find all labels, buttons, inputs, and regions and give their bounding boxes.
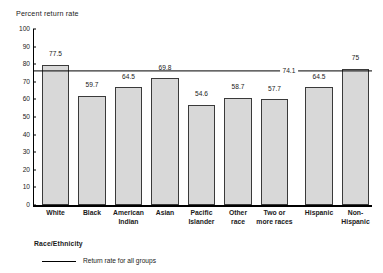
bars-layer: 77.559.764.569.854.658.757.764.575 (34, 29, 372, 205)
bar-slot: 64.5 (115, 29, 143, 205)
reference-line (33, 70, 372, 71)
y-axis-tick-label: 20 (23, 167, 30, 174)
bar-slot: 75 (342, 29, 370, 205)
bar-value-label: 59.7 (86, 83, 99, 90)
bar (342, 69, 370, 205)
bar (151, 78, 179, 205)
y-axis-title: Percent return rate (16, 9, 79, 18)
bar-slot: 54.6 (188, 29, 216, 205)
x-axis-category-label: Non- Hispanic (326, 208, 383, 227)
bar-chart-figure: Percent return rate 10090807060504030201… (0, 0, 383, 273)
bar-value-label: 54.6 (195, 92, 208, 99)
y-axis-tick-label: 80 (23, 61, 30, 68)
bar-value-label: 64.5 (313, 74, 326, 81)
bar-value-label: 75 (352, 56, 359, 63)
bar-value-label: 57.7 (268, 86, 281, 93)
y-axis-tick-label: 50 (23, 114, 30, 121)
x-axis-category-labels: WhiteBlackAmerican IndianAsianPacific Is… (34, 208, 373, 238)
legend: Return rate for all groups (42, 258, 156, 265)
reference-line-value-label: 74.1 (280, 67, 298, 74)
bar-slot: 57.7 (261, 29, 289, 205)
bar-slot: 64.5 (305, 29, 333, 205)
y-axis-tick-label: 70 (23, 79, 30, 86)
plot-area: 1009080706050403020100 77.559.764.569.85… (33, 29, 372, 205)
y-axis-tick-label: 90 (23, 43, 30, 50)
bar-value-label: 58.7 (232, 84, 245, 91)
bar-slot: 59.7 (78, 29, 106, 205)
bar-slot: 77.5 (42, 29, 70, 205)
y-axis-tick-label: 100 (19, 26, 30, 33)
bar-value-label: 64.5 (122, 74, 135, 81)
legend-label: Return rate for all groups (83, 258, 156, 265)
y-axis-tick-label: 60 (23, 96, 30, 103)
y-axis-tick-label: 30 (23, 149, 30, 156)
y-axis-tick-label: 10 (23, 184, 30, 191)
bar-slot: 58.7 (224, 29, 252, 205)
bar (305, 87, 333, 205)
bar (42, 65, 70, 205)
legend-line-swatch (42, 261, 76, 262)
bar (78, 96, 106, 205)
bar (115, 87, 143, 205)
bar (224, 98, 252, 205)
y-axis-tick-label: 40 (23, 131, 30, 138)
x-axis-title: Race/Ethnicity (34, 240, 83, 247)
bar (261, 99, 289, 205)
bar-slot: 69.8 (151, 29, 179, 205)
bar-value-label: 77.5 (49, 51, 62, 58)
bar (188, 105, 216, 205)
